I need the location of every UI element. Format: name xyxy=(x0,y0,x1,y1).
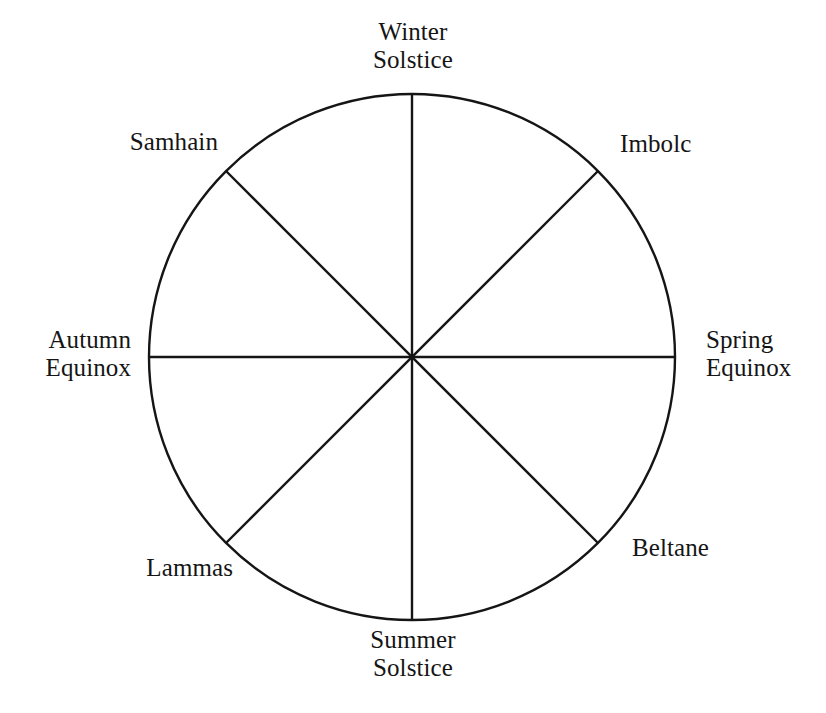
label-beltane: Beltane xyxy=(632,534,812,562)
label-samhain: Samhain xyxy=(18,128,218,156)
label-spring-equinox: Spring Equinox xyxy=(706,326,826,382)
label-imbolc: Imbolc xyxy=(620,130,800,158)
label-lammas: Lammas xyxy=(18,554,233,582)
label-winter-solstice: Winter Solstice xyxy=(293,18,533,74)
label-autumn-equinox: Autumn Equinox xyxy=(0,326,131,382)
label-summer-solstice: Summer Solstice xyxy=(293,626,533,682)
wheel-of-the-year-diagram: Winter Solstice Imbolc Spring Equinox Be… xyxy=(0,0,826,713)
